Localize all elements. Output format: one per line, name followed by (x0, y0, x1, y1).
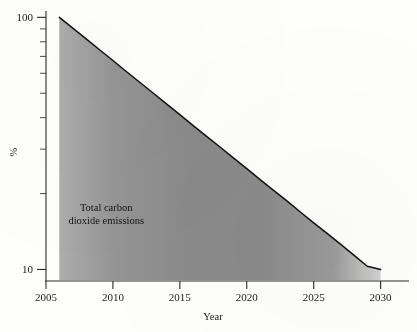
series-annotation-line2: dioxide emissions (68, 215, 144, 226)
x-tick-label-2025: 2025 (303, 291, 326, 303)
x-tick-label-2005: 2005 (35, 291, 58, 303)
y-tick-label-10: 10 (22, 263, 34, 275)
x-tick-label-2010: 2010 (102, 291, 125, 303)
x-tick-label-2020: 2020 (236, 291, 259, 303)
y-axis-title: % (8, 147, 19, 156)
x-tick-label-2030: 2030 (370, 291, 393, 303)
x-tick-label-2015: 2015 (169, 291, 192, 303)
series-annotation-line1: Total carbon (80, 202, 133, 213)
emissions-log-area-chart: 10010 200520102015202020252030 % Year To… (0, 0, 417, 332)
y-tick-label-100: 100 (17, 11, 34, 23)
x-axis-title: Year (203, 311, 223, 322)
chart-container: 10010 200520102015202020252030 % Year To… (0, 0, 417, 332)
